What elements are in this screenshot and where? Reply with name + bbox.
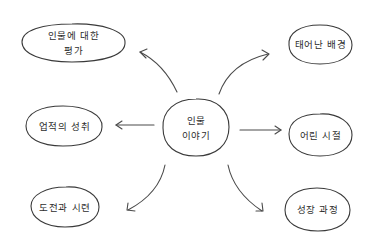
node-top-left-line1: 인물에 대한 (48, 28, 99, 43)
node-top-right: 태어난 배경 (289, 25, 352, 64)
node-middle-left: 업적의 성취 (26, 106, 103, 146)
center-node: 인물 이야기 (163, 99, 229, 156)
node-middle-left-line1: 업적의 성취 (39, 119, 90, 134)
arrow-to-top-right (219, 54, 268, 94)
center-node-line2: 이야기 (182, 128, 211, 143)
node-middle-right-line1: 어린 시절 (300, 128, 342, 143)
node-top-left-line2: 평가 (64, 43, 83, 58)
arrow-to-bottom-right (228, 165, 262, 211)
node-top-left: 인물에 대한 평가 (22, 24, 125, 62)
node-top-right-line1: 태어난 배경 (295, 37, 346, 52)
node-middle-right: 어린 시절 (289, 114, 352, 156)
mind-map-diagram: 인물 이야기 인물에 대한 평가 업적의 성취 도전과 시련 태어난 배경 어린… (0, 0, 386, 251)
node-bottom-right: 성장 과정 (285, 188, 350, 231)
node-bottom-right-line1: 성장 과정 (297, 202, 339, 217)
center-node-line1: 인물 (187, 113, 206, 128)
node-bottom-left-line1: 도전과 시련 (39, 200, 90, 215)
arrow-to-bottom-left (128, 165, 165, 210)
node-bottom-left: 도전과 시련 (31, 187, 99, 227)
